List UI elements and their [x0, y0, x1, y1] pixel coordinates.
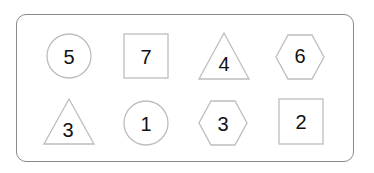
shape-square-r2c4: 2: [279, 99, 323, 144]
shape-circle-r1c1: 5: [47, 34, 91, 78]
shape-label: 5: [63, 46, 74, 68]
shape-label: 2: [295, 111, 306, 133]
shape-triangle-r2c1: 3: [44, 99, 94, 144]
shape-label: 7: [140, 46, 151, 68]
shape-label: 6: [294, 45, 305, 67]
shape-hexagon-r1c4: 6: [276, 35, 324, 79]
shape-circle-r2c2: 1: [124, 101, 168, 145]
shape-label: 3: [62, 119, 73, 141]
shape-hexagon-r2c3: 3: [199, 101, 247, 145]
shape-label: 1: [140, 113, 151, 135]
shape-triangle-r1c3: 4: [199, 33, 249, 79]
shape-label: 3: [217, 113, 228, 135]
shape-square-r1c2: 7: [124, 34, 168, 78]
shapes-diagram: 5 7 4 6 3 1 3 2: [0, 0, 374, 173]
shape-label: 4: [218, 53, 229, 75]
